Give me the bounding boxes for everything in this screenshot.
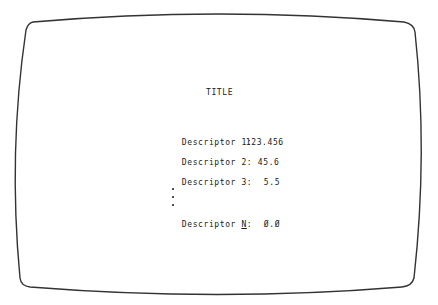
descriptor-value: Ø.Ø — [264, 220, 280, 230]
descriptor-row-1: Descriptor 1:123.456 — [171, 128, 284, 148]
page-title: TITLE — [206, 88, 233, 98]
descriptor-row-n: Descriptor N:Ø.Ø — [171, 210, 280, 230]
descriptor-label: Descriptor N: — [182, 220, 248, 230]
descriptor-value: 5.5 — [264, 178, 280, 188]
descriptor-row-3: Descriptor 3:5.5 — [171, 168, 280, 188]
descriptor-value: 123.456 — [246, 138, 284, 148]
descriptor-label: Descriptor 2: — [182, 158, 248, 168]
ellipsis-dot — [172, 196, 174, 198]
descriptor-value: 45.6 — [258, 158, 280, 168]
ellipsis-dot — [172, 204, 174, 206]
descriptor-row-2: Descriptor 2:45.6 — [171, 148, 280, 168]
descriptor-label: Descriptor 3: — [182, 178, 248, 188]
descriptor-label: Descriptor 1: — [182, 138, 248, 148]
ellipsis-dot — [172, 188, 174, 190]
